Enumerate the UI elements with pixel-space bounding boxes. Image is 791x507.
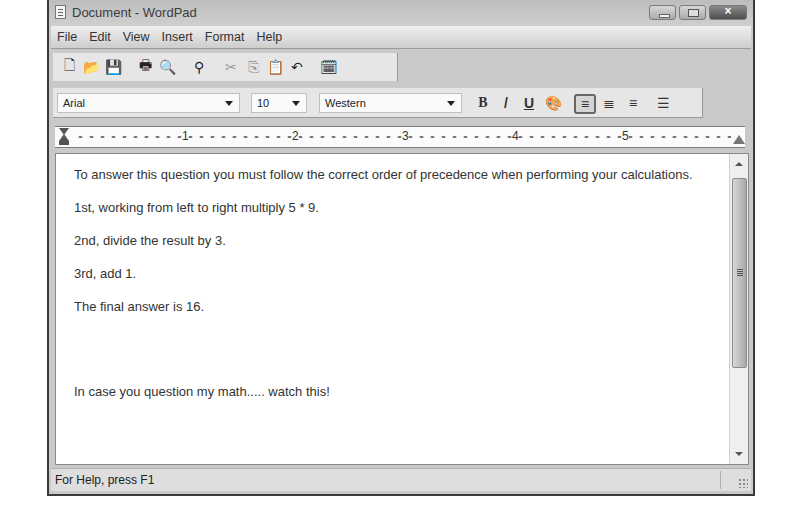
document-content[interactable]: To answer this question you must follow … <box>74 166 714 416</box>
insert-datetime-icon[interactable]: 🗓 <box>319 57 339 77</box>
menu-help[interactable]: Help <box>250 30 288 44</box>
minimize-icon <box>659 14 670 18</box>
scroll-down-icon[interactable] <box>735 452 743 456</box>
grip-icon <box>737 269 743 270</box>
paragraph: 1st, working from left to right multiply… <box>74 199 714 216</box>
minimize-button[interactable] <box>649 5 676 20</box>
chevron-down-icon <box>225 101 233 106</box>
ruler-number: 5 <box>622 129 629 143</box>
align-right-button[interactable]: ≡ <box>623 94 643 112</box>
font-size-select[interactable]: 10 <box>251 93 307 113</box>
paragraph: In case you question my math..... watch … <box>74 383 714 400</box>
document-editor[interactable]: To answer this question you must follow … <box>55 153 749 465</box>
chevron-down-icon <box>292 101 300 106</box>
bold-button[interactable]: B <box>473 94 493 112</box>
wordpad-window: Document - WordPad × File Edit View Inse… <box>47 0 755 496</box>
paragraph: To answer this question you must follow … <box>74 166 714 183</box>
script-select[interactable]: Western <box>319 93 462 113</box>
maximize-icon <box>688 9 699 17</box>
standard-toolbar: 🗋 📂 💾 🖶 🔍 ⚲ ✂ ⎘ 📋 ↶ 🗓 <box>53 53 398 81</box>
text-color-button[interactable]: 🎨 <box>543 94 563 112</box>
status-divider <box>720 471 721 489</box>
find-binoculars-icon[interactable]: ⚲ <box>189 57 209 77</box>
right-indent-icon[interactable] <box>733 135 745 144</box>
align-center-button[interactable]: ≣ <box>599 94 619 112</box>
maximize-button[interactable] <box>679 5 706 20</box>
wordpad-app-icon[interactable] <box>55 5 66 19</box>
paste-icon[interactable]: 📋 <box>265 57 285 77</box>
bullets-button[interactable]: ☰ <box>653 94 673 112</box>
ruler-number: 4 <box>512 129 519 143</box>
save-icon[interactable]: 💾 <box>103 57 123 77</box>
left-indent-icon <box>59 141 69 145</box>
scroll-up-icon[interactable] <box>735 162 743 166</box>
window-title: Document - WordPad <box>72 5 197 20</box>
menu-insert[interactable]: Insert <box>156 30 199 44</box>
blank-lines <box>74 331 714 383</box>
italic-button[interactable]: / <box>496 94 516 112</box>
menu-bar: File Edit View Insert Format Help <box>51 26 751 49</box>
menu-file[interactable]: File <box>51 30 83 44</box>
open-folder-icon[interactable]: 📂 <box>81 57 101 77</box>
menu-view[interactable]: View <box>117 30 156 44</box>
print-icon[interactable]: 🖶 <box>135 57 155 77</box>
font-size-value: 10 <box>257 97 269 109</box>
align-left-button[interactable]: ≡ <box>574 94 596 114</box>
undo-icon[interactable]: ↶ <box>287 57 307 77</box>
script-value: Western <box>325 97 366 109</box>
font-name-value: Arial <box>63 97 85 109</box>
ruler[interactable]: 1 2 3 4 5 <box>55 126 745 148</box>
window-controls: × <box>649 5 747 20</box>
copy-icon[interactable]: ⎘ <box>243 57 263 77</box>
print-preview-icon[interactable]: 🔍 <box>157 57 177 77</box>
format-toolbar: Arial 10 Western B / U 🎨 ≡ ≣ ≡ ☰ <box>53 88 703 118</box>
paragraph: 2nd, divide the result by 3. <box>74 232 714 249</box>
ruler-number: 3 <box>402 129 409 143</box>
underline-button[interactable]: U <box>519 94 539 112</box>
chevron-down-icon <box>447 101 455 106</box>
new-document-icon[interactable]: 🗋 <box>59 57 79 77</box>
menu-format[interactable]: Format <box>199 30 251 44</box>
hanging-indent-icon <box>59 134 69 141</box>
paragraph: 3rd, add 1. <box>74 265 714 282</box>
close-icon: × <box>710 4 746 18</box>
font-name-select[interactable]: Arial <box>57 93 240 113</box>
menu-edit[interactable]: Edit <box>83 30 117 44</box>
close-button[interactable]: × <box>709 5 747 20</box>
ruler-number: 2 <box>292 129 299 143</box>
scroll-thumb[interactable] <box>732 178 747 368</box>
status-bar: For Help, press F1 <box>51 468 751 491</box>
status-text: For Help, press F1 <box>55 473 154 487</box>
resize-grip-icon[interactable] <box>738 478 748 488</box>
cut-icon[interactable]: ✂ <box>221 57 241 77</box>
vertical-scrollbar[interactable] <box>729 154 748 464</box>
title-bar[interactable]: Document - WordPad × <box>49 0 753 26</box>
paragraph: The final answer is 16. <box>74 298 714 315</box>
indent-marker[interactable] <box>59 128 69 146</box>
ruler-number: 1 <box>182 129 189 143</box>
